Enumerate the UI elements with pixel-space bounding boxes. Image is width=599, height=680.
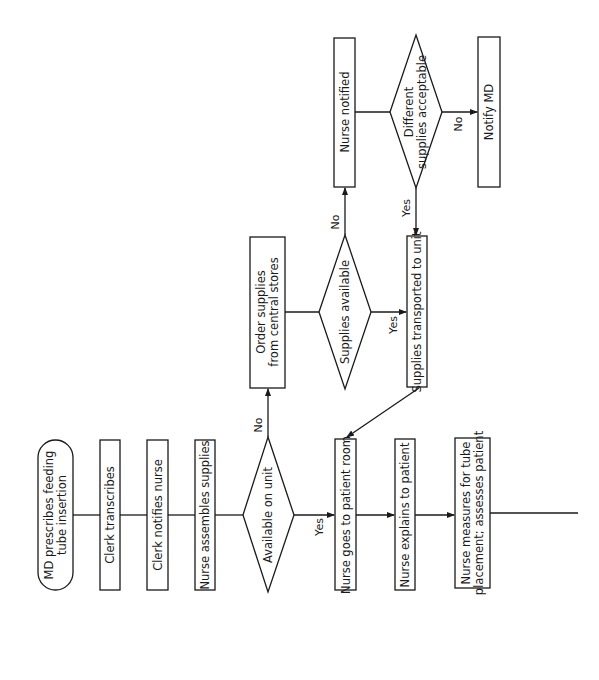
node-nurse-notified: Nurse notified — [334, 38, 355, 187]
edge-label-available-no: No — [252, 417, 265, 432]
edge-transported-to-nurse-goes — [347, 388, 419, 437]
edge-label-supplies-no: No — [329, 214, 342, 229]
node-label: Supplies available — [338, 260, 352, 364]
node-nurse-measures: Nurse measures for tube placement; asses… — [455, 430, 490, 595]
node-label: Order supplies — [254, 270, 268, 354]
node-supplies-transported: Supplies transported to unit — [407, 231, 427, 392]
node-label: placement; assesses patient — [472, 430, 486, 595]
node-available-on-unit: Available on unit — [243, 437, 294, 592]
node-label: Nurse assembles supplies — [198, 440, 212, 589]
node-label: from central stores — [267, 257, 281, 366]
edge-label-available-yes: Yes — [313, 518, 326, 537]
node-label: Different — [402, 86, 416, 137]
node-label: Supplies transported to unit — [410, 231, 424, 392]
node-label: MD prescribes feeding — [42, 451, 56, 580]
node-nurse-goes: Nurse goes to patient room — [335, 436, 356, 594]
edge-label-different-no: No — [452, 116, 465, 131]
node-nurse-assembles: Nurse assembles supplies — [195, 440, 215, 590]
node-label: Nurse notified — [338, 72, 352, 153]
edge-label-supplies-yes: Yes — [387, 316, 400, 335]
node-label: Notify MD — [482, 84, 496, 141]
node-label: Clerk transcribes — [103, 466, 117, 564]
node-supplies-available: Supplies available — [319, 235, 371, 389]
node-notify-md: Notify MD — [478, 37, 500, 187]
node-label: Nurse goes to patient room — [339, 436, 353, 594]
edge-label-different-yes: Yes — [400, 199, 413, 218]
node-clerk-transcribes: Clerk transcribes — [100, 440, 120, 590]
node-clerk-notifies: Clerk notifies nurse — [147, 440, 168, 590]
node-different-acceptable: Different supplies acceptable — [390, 35, 442, 188]
node-label: Available on unit — [261, 467, 275, 563]
node-label: Clerk notifies nurse — [151, 459, 165, 571]
node-nurse-explains: Nurse explains to patient — [395, 439, 415, 590]
node-label: Nurse explains to patient — [398, 442, 412, 587]
node-label: Nurse measures for tube — [459, 442, 473, 585]
node-label: supplies acceptable — [415, 55, 429, 169]
node-start: MD prescribes feeding tube insertion — [38, 440, 73, 590]
node-order-supplies: Order supplies from central stores — [250, 237, 285, 388]
node-label: tube insertion — [55, 475, 69, 555]
flowchart-canvas: No Yes No Yes No Yes MD prescribes feedi… — [0, 0, 599, 680]
